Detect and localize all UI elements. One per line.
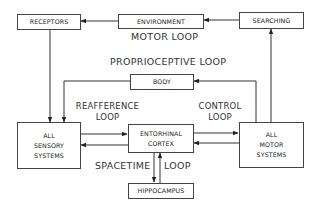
all-motor-systems-box: ALL MOTOR SYSTEMS	[239, 122, 304, 168]
entorhinal-line2: CORTEX	[148, 139, 174, 149]
searching-box: SEARCHING	[239, 12, 304, 29]
spacetime-label: SPACETIME	[95, 160, 151, 171]
motor-loop-label: MOTOR LOOP	[131, 31, 198, 42]
receptors-label: RECEPTORS	[30, 17, 69, 27]
body-label: BODY	[153, 77, 171, 87]
proprioceptive-loop-label: PROPRIOCEPTIVE LOOP	[110, 56, 226, 67]
entorhinal-cortex-box: ENTORHINAL CORTEX	[128, 124, 194, 153]
sensory-line2: SENSORY	[34, 141, 64, 151]
sensory-line3: SYSTEMS	[34, 151, 64, 161]
spacetime-loop-label: LOOP	[164, 160, 191, 171]
control-loop-label: CONTROL LOOP	[196, 101, 244, 123]
searching-label: SEARCHING	[253, 16, 291, 26]
environment-box: ENVIRONMENT	[118, 14, 204, 29]
receptors-box: RECEPTORS	[17, 14, 81, 30]
reafference-line2: LOOP	[70, 112, 145, 123]
control-line2: LOOP	[196, 112, 244, 123]
motor-line3: SYSTEMS	[257, 150, 287, 160]
reafference-line1: REAFFERENCE	[70, 101, 145, 112]
all-sensory-systems-box: ALL SENSORY SYSTEMS	[17, 122, 81, 169]
entorhinal-line1: ENTORHINAL	[140, 129, 182, 139]
reafference-loop-label: REAFFERENCE LOOP	[70, 101, 145, 123]
hippocampus-box: HIPPOCAMPUS	[128, 183, 194, 199]
control-line1: CONTROL	[196, 101, 244, 112]
body-box: BODY	[130, 74, 194, 90]
environment-label: ENVIRONMENT	[137, 17, 185, 27]
motor-line2: MOTOR	[259, 140, 283, 150]
sensory-line1: ALL	[43, 131, 55, 141]
motor-line1: ALL	[266, 130, 278, 140]
hippocampus-label: HIPPOCAMPUS	[138, 186, 185, 196]
